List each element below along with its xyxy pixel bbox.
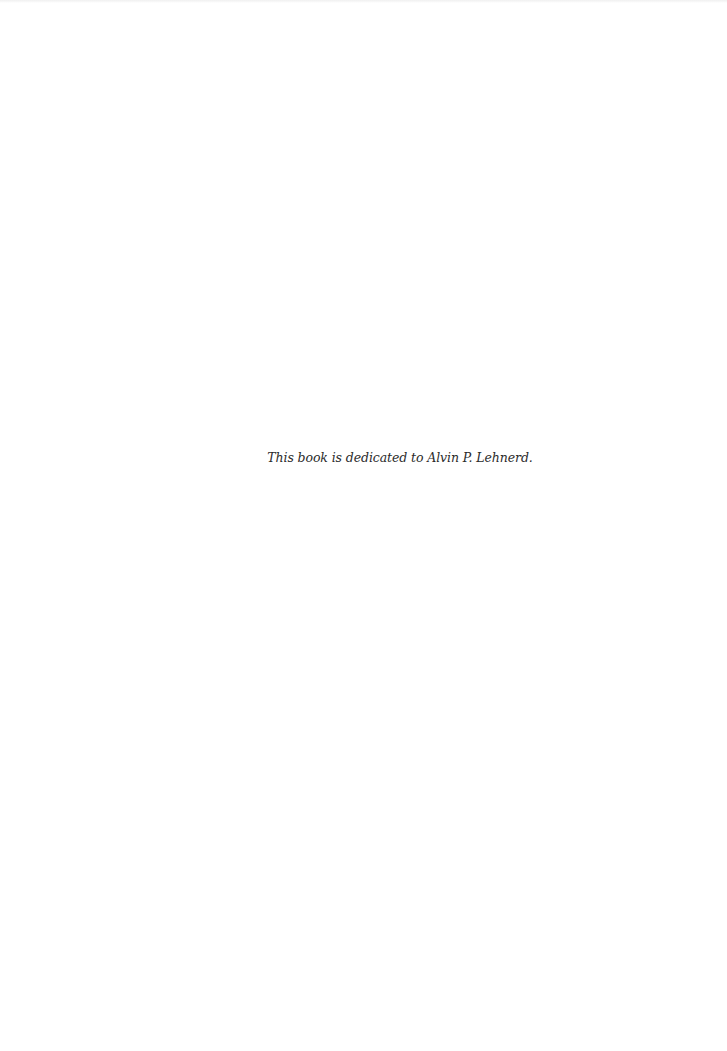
page-top-edge <box>0 0 727 3</box>
dedication-text: This book is dedicated to Alvin P. Lehne… <box>0 449 727 467</box>
document-page: This book is dedicated to Alvin P. Lehne… <box>0 0 727 1051</box>
